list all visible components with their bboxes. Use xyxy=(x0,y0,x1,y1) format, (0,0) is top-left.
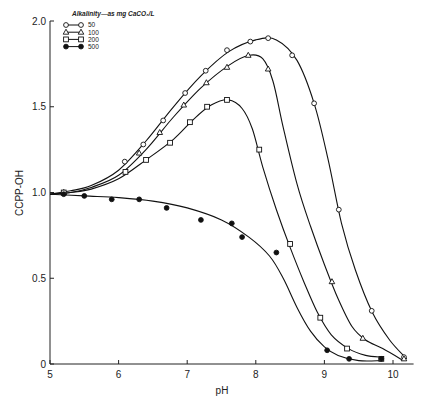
x-tick-label: 7 xyxy=(184,369,190,380)
circle-marker xyxy=(203,68,208,73)
x-tick-label: 9 xyxy=(322,369,328,380)
legend-entry-500: 500 xyxy=(64,43,100,50)
square-marker xyxy=(288,242,293,247)
legend-entry-100: 100 xyxy=(63,29,99,36)
series-points-200 xyxy=(61,97,383,361)
circle-marker xyxy=(336,207,341,212)
circle-marker xyxy=(266,36,271,41)
circle-marker xyxy=(64,23,69,28)
x-tick-label: 6 xyxy=(116,369,122,380)
filled-circle-marker xyxy=(229,221,234,226)
circle-marker xyxy=(225,48,230,53)
circle-marker xyxy=(369,308,374,313)
filled-circle-marker xyxy=(240,235,245,240)
line-chart: 00.51.01.52.05678910 CCPP-OH pH Alkalini… xyxy=(0,0,425,405)
filled-circle-marker xyxy=(61,192,66,197)
square-marker xyxy=(318,315,323,320)
square-marker xyxy=(188,120,193,125)
square-marker xyxy=(205,104,210,109)
square-marker xyxy=(79,37,84,42)
legend: Alkalinity—as mg CaCO₃/L 50100200500 xyxy=(63,10,154,50)
series-line-200 xyxy=(50,100,381,357)
series-markers xyxy=(61,36,407,362)
circle-marker xyxy=(290,53,295,58)
filled-circle-marker xyxy=(199,218,204,223)
triangle-marker xyxy=(265,66,271,71)
x-tick-label: 8 xyxy=(253,369,259,380)
filled-circle-marker xyxy=(164,206,169,211)
circle-marker xyxy=(161,118,166,123)
filled-circle-marker xyxy=(109,197,114,202)
legend-title: Alkalinity—as mg CaCO₃/L xyxy=(71,10,154,18)
legend-label: 500 xyxy=(88,43,99,50)
filled-circle-marker xyxy=(379,356,384,361)
y-tick-label: 1.5 xyxy=(32,101,46,112)
circle-marker xyxy=(312,101,317,106)
y-tick-label: 0.5 xyxy=(32,273,46,284)
filled-circle-marker xyxy=(347,356,352,361)
filled-circle-marker xyxy=(274,250,279,255)
circle-marker xyxy=(141,142,146,147)
legend-label: 50 xyxy=(88,21,96,28)
y-axis-title: CCPP-OH xyxy=(14,170,25,216)
series-line-50 xyxy=(50,38,407,359)
series-curves xyxy=(50,38,407,361)
filled-circle-marker xyxy=(82,194,87,199)
circle-marker xyxy=(79,23,84,28)
x-axis-title: pH xyxy=(216,385,229,396)
x-tick-label: 5 xyxy=(47,369,53,380)
square-marker xyxy=(123,170,128,175)
filled-circle-marker xyxy=(325,348,330,353)
series-points-500 xyxy=(61,192,383,361)
legend-entries: 50100200500 xyxy=(63,21,99,50)
filled-circle-marker xyxy=(137,197,142,202)
square-marker xyxy=(168,140,173,145)
x-tick-label: 10 xyxy=(387,369,399,380)
filled-circle-marker xyxy=(79,44,84,49)
legend-label: 200 xyxy=(88,36,99,43)
filled-circle-marker xyxy=(64,44,69,49)
series-points-100 xyxy=(61,52,407,361)
circle-marker xyxy=(183,91,188,96)
circle-marker xyxy=(248,39,253,44)
square-marker xyxy=(64,37,69,42)
y-tick-label: 2.0 xyxy=(32,16,46,27)
legend-entry-50: 50 xyxy=(64,21,96,28)
circle-marker xyxy=(122,159,127,164)
y-tick-label: 0 xyxy=(40,359,46,370)
square-marker xyxy=(257,147,262,152)
square-marker xyxy=(345,346,350,351)
legend-label: 100 xyxy=(88,29,99,36)
y-tick-label: 1.0 xyxy=(32,187,46,198)
square-marker xyxy=(225,97,230,102)
legend-entry-200: 200 xyxy=(64,36,100,43)
square-marker xyxy=(144,158,149,163)
